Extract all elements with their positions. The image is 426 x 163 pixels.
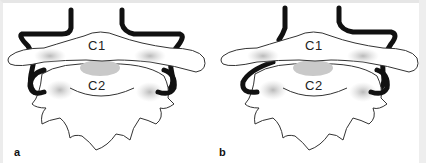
c1-label: C1 [88,38,106,53]
c1-label: C1 [305,38,323,53]
c2-label: C2 [88,78,106,93]
vertebrae-diagram-a [0,0,213,163]
panel-b: C1 C2 b [213,0,426,163]
c2-label: C2 [305,78,323,93]
panel-label-a: a [14,146,20,158]
c2-vertebra [245,64,387,150]
c2-vertebra [32,64,174,150]
panel-a: C1 C2 a [0,0,213,163]
panel-label-b: b [219,146,226,158]
